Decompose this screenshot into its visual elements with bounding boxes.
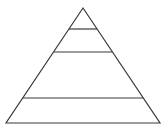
pyramid-diagram bbox=[0, 0, 166, 131]
pyramid-outline bbox=[6, 8, 160, 123]
